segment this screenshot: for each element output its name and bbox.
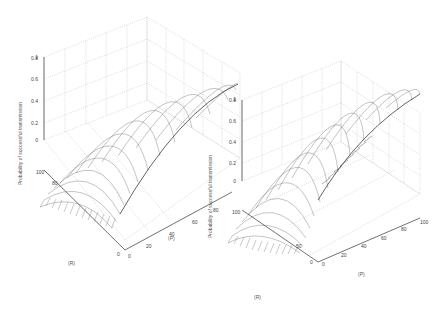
right-x-axis [318, 218, 420, 262]
right-surface-dark-band [322, 136, 372, 184]
svg-text:60: 60 [381, 235, 387, 241]
right-x-label: (P) [358, 271, 365, 277]
svg-text:60: 60 [192, 219, 198, 225]
left-panel-label: (R) [68, 260, 75, 266]
svg-text:1: 1 [233, 96, 236, 102]
right-z-label: Probability of successful transmission [207, 155, 213, 238]
svg-text:0: 0 [35, 137, 38, 143]
svg-text:0: 0 [128, 253, 131, 259]
left-x-label: (P) [168, 235, 175, 241]
right-grid [242, 61, 420, 255]
svg-text:100: 100 [232, 209, 241, 215]
svg-text:0.6: 0.6 [31, 76, 38, 82]
svg-text:100: 100 [420, 219, 429, 225]
figure: 0 0.2 0.4 0.6 0.8 1 100 80 0 0 20 40 60 … [0, 0, 445, 314]
svg-text:0.6: 0.6 [229, 118, 236, 124]
right-panel-label: (R) [254, 294, 261, 300]
left-surface-ribs [40, 198, 115, 228]
svg-text:0: 0 [322, 261, 325, 267]
svg-text:20: 20 [146, 243, 152, 249]
svg-text:0: 0 [117, 251, 120, 257]
svg-text:100: 100 [36, 169, 45, 175]
svg-text:20: 20 [341, 252, 347, 258]
left-z-ticks: 0 0.2 0.4 0.6 0.8 1 [31, 54, 38, 143]
svg-text:0.4: 0.4 [31, 98, 38, 104]
svg-text:0.2: 0.2 [31, 120, 38, 126]
left-x-axis [125, 192, 232, 250]
svg-text:0: 0 [310, 259, 313, 265]
svg-text:40: 40 [361, 243, 367, 249]
svg-text:0: 0 [233, 178, 236, 184]
svg-text:1: 1 [35, 54, 38, 60]
svg-text:80: 80 [213, 207, 219, 213]
svg-text:80: 80 [401, 226, 407, 232]
left-z-label: Probability of successful transmission [17, 102, 23, 185]
right-z-ticks: 0 0.2 0.4 0.6 0.8 1 [229, 96, 236, 184]
svg-text:0.2: 0.2 [229, 160, 236, 166]
svg-text:0.4: 0.4 [229, 139, 236, 145]
